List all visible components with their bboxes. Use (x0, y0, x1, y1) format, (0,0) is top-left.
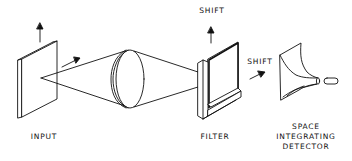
lens (111, 50, 144, 108)
input-shift-up-arrow-icon (37, 23, 43, 42)
input-plane (18, 41, 57, 118)
filter-shift-up-arrow-icon (208, 27, 214, 43)
detector-label-line-2: INTEGRATING (270, 132, 342, 142)
detector-label-line-3: DETECTOR (270, 142, 342, 152)
filter (198, 42, 241, 119)
space-integrating-detector (280, 43, 338, 100)
filter-shift-right-label: SHIFT (244, 57, 276, 67)
filter-shift-up-label: SHIFT (196, 6, 228, 16)
input-shift-right-arrow-icon (62, 57, 80, 67)
detector-label-line-1: SPACE (270, 122, 342, 132)
filter-label: FILTER (195, 132, 235, 142)
filter-shift-right-arrow-icon (250, 71, 265, 79)
input-label: INPUT (24, 132, 64, 142)
